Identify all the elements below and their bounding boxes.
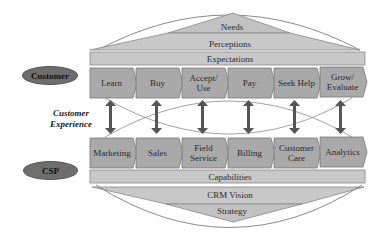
arrow-6 xyxy=(335,100,346,134)
stage-grow-evaluate: Grow/Evaluate xyxy=(320,67,365,97)
arrow-1 xyxy=(105,100,116,134)
crm-vision-label: CRM Vision xyxy=(180,190,280,200)
csp-actor-oval: CSP xyxy=(23,161,78,180)
perceptions-label: Perceptions xyxy=(180,39,280,49)
stage-accept-use: Accept/Use xyxy=(182,68,225,98)
function-sales: Sales xyxy=(136,138,179,168)
needs-label: Needs xyxy=(200,22,264,32)
arrow-5 xyxy=(289,100,300,134)
capabilities-label: Capabilities xyxy=(180,172,280,182)
stage-seek-help: Seek Help xyxy=(274,68,319,98)
interaction-arrows xyxy=(105,100,346,134)
strategy-label: Strategy xyxy=(200,206,264,216)
customer-actor-label: Customer xyxy=(31,71,69,81)
function-billing: Billing xyxy=(228,138,271,168)
arrow-3 xyxy=(197,100,208,134)
expectations-label: Expectations xyxy=(180,54,280,64)
stage-buy: Buy xyxy=(136,68,179,98)
customer-actor-oval: Customer xyxy=(22,66,78,85)
arrow-4 xyxy=(243,100,254,134)
function-customer-care: CustomerCare xyxy=(274,138,319,168)
stage-learn: Learn xyxy=(90,68,133,98)
function-marketing: Marketing xyxy=(89,138,135,168)
customer-experience-label: Customer Experience xyxy=(36,108,106,130)
middle-arc-lower xyxy=(105,98,352,134)
stage-pay: Pay xyxy=(228,68,271,98)
csp-actor-label: CSP xyxy=(42,166,59,176)
function-field-service: FieldService xyxy=(182,138,225,168)
middle-arc-upper xyxy=(105,101,352,137)
function-analytics: Analytics xyxy=(320,137,365,167)
arrow-2 xyxy=(151,100,162,134)
